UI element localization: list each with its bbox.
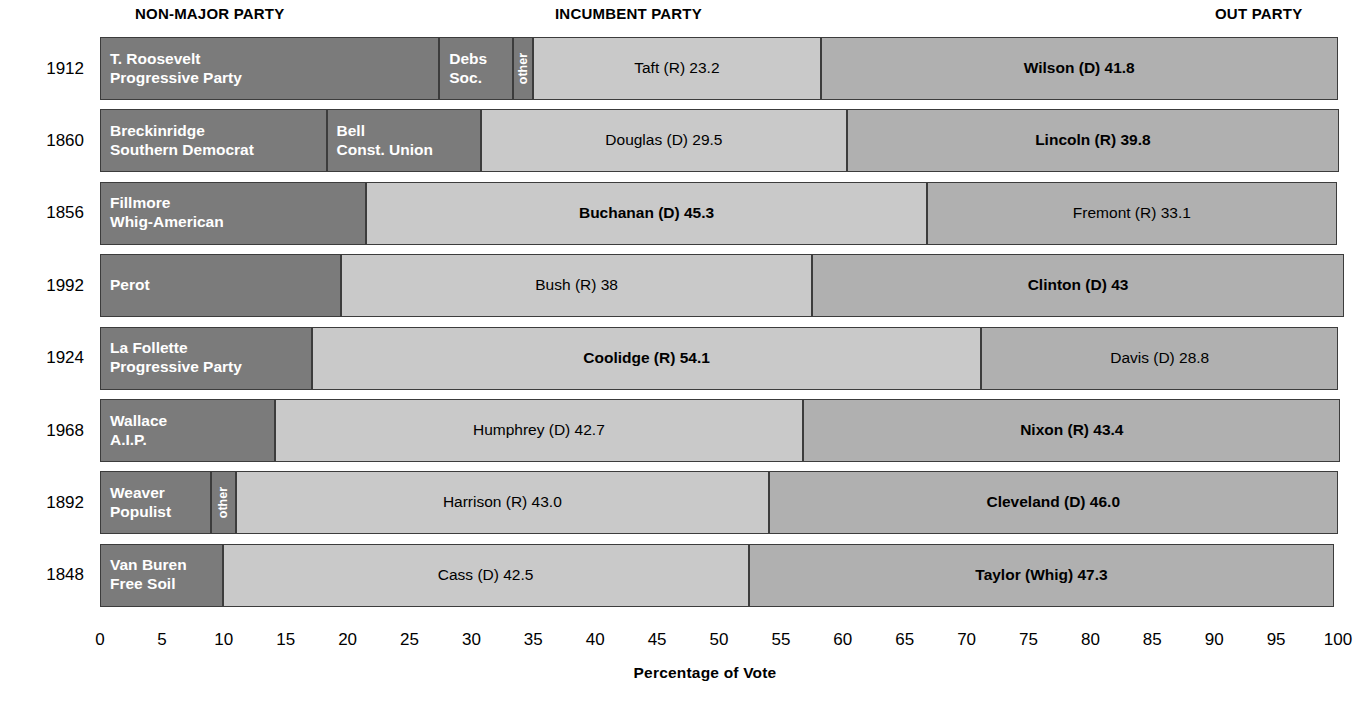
bar-segment-nonmajor[interactable]: Wallace A.I.P.: [100, 399, 275, 462]
stacked-bar: La Follette Progressive PartyCoolidge (R…: [100, 327, 1338, 390]
x-axis-tick-label: 15: [276, 630, 295, 650]
bar-segment-label: Perot: [101, 276, 150, 295]
bar-segment-label: other: [516, 53, 531, 84]
x-axis-tick-label: 25: [400, 630, 419, 650]
chart-row: 1848Van Buren Free SoilCass (D) 42.5Tayl…: [0, 544, 1360, 607]
x-axis-tick-label: 10: [214, 630, 233, 650]
bar-segment-label: Douglas (D) 29.5: [482, 131, 845, 150]
header-non-major-party: NON-MAJOR PARTY: [135, 5, 284, 22]
chart-row: 1892Weaver PopulistotherHarrison (R) 43.…: [0, 471, 1360, 534]
x-axis-tick-label: 95: [1267, 630, 1286, 650]
bar-segment-label: Coolidge (R) 54.1: [313, 349, 981, 368]
bar-segment-label: Debs Soc.: [440, 50, 487, 88]
row-year-label: 1924: [18, 348, 84, 368]
row-year-label: 1992: [18, 276, 84, 296]
bar-segment-label: Fremont (R) 33.1: [928, 204, 1336, 223]
stacked-bar: T. Roosevelt Progressive PartyDebs Soc.o…: [100, 37, 1338, 100]
bar-segment-nonmajor[interactable]: Bell Const. Union: [327, 109, 482, 172]
header-incumbent-party: INCUMBENT PARTY: [555, 5, 702, 22]
bar-segment-label: Taft (R) 23.2: [534, 59, 819, 78]
bar-segment-label: Davis (D) 28.8: [982, 349, 1337, 368]
x-axis-title: Percentage of Vote: [0, 664, 1360, 682]
bar-segment-outparty[interactable]: Nixon (R) 43.4: [803, 399, 1340, 462]
x-axis-tick-label: 50: [710, 630, 729, 650]
bar-segment-label: Lincoln (R) 39.8: [848, 131, 1339, 150]
bar-segment-nonmajor[interactable]: La Follette Progressive Party: [100, 327, 312, 390]
bar-segment-incumbent[interactable]: Bush (R) 38: [341, 254, 811, 317]
bar-segment-label: Van Buren Free Soil: [101, 556, 187, 594]
x-axis-tick-label: 85: [1143, 630, 1162, 650]
bar-segment-incumbent[interactable]: Taft (R) 23.2: [533, 37, 820, 100]
x-axis-tick-label: 90: [1205, 630, 1224, 650]
bar-segment-incumbent[interactable]: Buchanan (D) 45.3: [366, 182, 927, 245]
stacked-bar: Fillmore Whig-AmericanBuchanan (D) 45.3F…: [100, 182, 1337, 245]
row-year-label: 1856: [18, 203, 84, 223]
x-axis-tick-label: 75: [1019, 630, 1038, 650]
x-axis-tick-label: 65: [895, 630, 914, 650]
bar-segment-outparty[interactable]: Cleveland (D) 46.0: [769, 471, 1338, 534]
row-year-label: 1892: [18, 493, 84, 513]
bar-segment-nonmajor[interactable]: Van Buren Free Soil: [100, 544, 223, 607]
bar-segment-label: Nixon (R) 43.4: [804, 421, 1339, 440]
row-year-label: 1860: [18, 131, 84, 151]
bar-segment-label: Wallace A.I.P.: [101, 412, 167, 450]
bar-segment-nonmajor[interactable]: other: [211, 471, 236, 534]
bar-segment-label: Breckinridge Southern Democrat: [101, 122, 254, 160]
bar-segment-incumbent[interactable]: Douglas (D) 29.5: [481, 109, 846, 172]
x-axis-tick-label: 5: [157, 630, 166, 650]
x-axis-tick-label: 20: [338, 630, 357, 650]
bar-segment-nonmajor[interactable]: Weaver Populist: [100, 471, 211, 534]
bar-segment-label: Taylor (Whig) 47.3: [750, 566, 1334, 585]
stacked-bar: Weaver PopulistotherHarrison (R) 43.0Cle…: [100, 471, 1338, 534]
bar-segment-label: Bell Const. Union: [328, 122, 433, 160]
bar-segment-outparty[interactable]: Wilson (D) 41.8: [821, 37, 1338, 100]
x-axis-tick-label: 45: [648, 630, 667, 650]
bar-segment-nonmajor[interactable]: Perot: [100, 254, 341, 317]
bar-segment-incumbent[interactable]: Cass (D) 42.5: [223, 544, 749, 607]
bar-segment-label: Fillmore Whig-American: [101, 194, 224, 232]
bar-segment-label: Buchanan (D) 45.3: [367, 204, 926, 223]
bar-segment-nonmajor[interactable]: Debs Soc.: [439, 37, 513, 100]
x-axis-tick-label: 0: [95, 630, 104, 650]
chart-row: 1912T. Roosevelt Progressive PartyDebs S…: [0, 37, 1360, 100]
bar-segment-incumbent[interactable]: Harrison (R) 43.0: [236, 471, 768, 534]
stacked-bar: Breckinridge Southern DemocratBell Const…: [100, 109, 1339, 172]
bar-segment-outparty[interactable]: Davis (D) 28.8: [981, 327, 1338, 390]
x-axis-tick-label: 60: [833, 630, 852, 650]
x-axis-tick-label: 100: [1324, 630, 1352, 650]
bar-segment-label: other: [216, 487, 231, 518]
x-axis-tick-label: 55: [771, 630, 790, 650]
bar-segment-nonmajor[interactable]: Fillmore Whig-American: [100, 182, 366, 245]
x-axis-tick-label: 70: [957, 630, 976, 650]
x-axis-tick-label: 80: [1081, 630, 1100, 650]
bar-segment-incumbent[interactable]: Humphrey (D) 42.7: [275, 399, 804, 462]
x-axis-tick-label: 35: [524, 630, 543, 650]
bar-segment-label: Weaver Populist: [101, 484, 171, 522]
chart-row: 1924La Follette Progressive PartyCoolidg…: [0, 327, 1360, 390]
bar-segment-outparty[interactable]: Lincoln (R) 39.8: [847, 109, 1340, 172]
header-out-party: OUT PARTY: [1215, 5, 1302, 22]
x-axis-tick-label: 30: [462, 630, 481, 650]
row-year-label: 1968: [18, 421, 84, 441]
chart-row: 1856Fillmore Whig-AmericanBuchanan (D) 4…: [0, 182, 1360, 245]
bar-segment-label: Humphrey (D) 42.7: [276, 421, 803, 440]
bar-segment-nonmajor[interactable]: other: [513, 37, 533, 100]
bar-segment-label: La Follette Progressive Party: [101, 339, 242, 377]
chart-row: 1860Breckinridge Southern DemocratBell C…: [0, 109, 1360, 172]
bar-segment-label: Cleveland (D) 46.0: [770, 493, 1337, 512]
bar-segment-outparty[interactable]: Taylor (Whig) 47.3: [749, 544, 1335, 607]
bar-segment-outparty[interactable]: Fremont (R) 33.1: [927, 182, 1337, 245]
bar-segment-label: Bush (R) 38: [342, 276, 810, 295]
bar-segment-outparty[interactable]: Clinton (D) 43: [812, 254, 1344, 317]
stacked-bar: Van Buren Free SoilCass (D) 42.5Taylor (…: [100, 544, 1334, 607]
bar-segment-label: Clinton (D) 43: [813, 276, 1343, 295]
x-axis-tick-label: 40: [586, 630, 605, 650]
bar-segment-label: Wilson (D) 41.8: [822, 59, 1337, 78]
x-axis: 0510152025303540455055606570758085909510…: [0, 630, 1360, 660]
stacked-bar-chart: 1912T. Roosevelt Progressive PartyDebs S…: [0, 30, 1360, 630]
bar-segment-incumbent[interactable]: Coolidge (R) 54.1: [312, 327, 982, 390]
bar-segment-nonmajor[interactable]: T. Roosevelt Progressive Party: [100, 37, 439, 100]
bar-segment-nonmajor[interactable]: Breckinridge Southern Democrat: [100, 109, 327, 172]
row-year-label: 1848: [18, 565, 84, 585]
bar-segment-label: T. Roosevelt Progressive Party: [101, 50, 242, 88]
